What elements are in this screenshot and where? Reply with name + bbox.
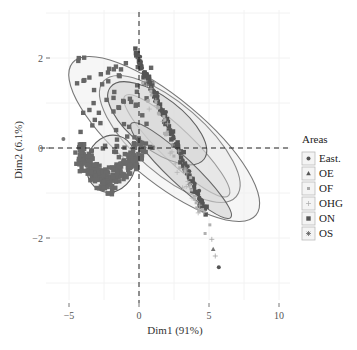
legend-label: OE bbox=[319, 167, 334, 179]
pca-biplot: −50510 −202 Dim1 (91%) Dim2 (6.1%) Areas… bbox=[0, 0, 357, 350]
legend-item-ohg: OHG bbox=[302, 197, 343, 210]
legend-item-of: OF bbox=[302, 182, 333, 195]
legend-item-os: OS bbox=[302, 227, 333, 240]
legend-label: OHG bbox=[319, 197, 343, 209]
legend-item-east: East. bbox=[302, 152, 341, 165]
legend-item-oe: OE bbox=[302, 167, 334, 180]
x-tick-label: −5 bbox=[64, 310, 75, 321]
legend-title: Areas bbox=[302, 133, 328, 145]
y-axis-ticks: −202 bbox=[32, 53, 50, 244]
x-axis-title: Dim1 (91%) bbox=[147, 324, 203, 337]
x-tick-label: 10 bbox=[274, 310, 284, 321]
x-axis-ticks: −50510 bbox=[64, 303, 284, 321]
legend-label: OS bbox=[319, 227, 333, 239]
y-tick-label: −2 bbox=[32, 233, 43, 244]
y-axis-title: Dim2 (6.1%) bbox=[12, 121, 25, 179]
x-tick-label: 0 bbox=[137, 310, 142, 321]
x-tick-label: 5 bbox=[207, 310, 212, 321]
legend-label: East. bbox=[319, 152, 341, 164]
confidence-ellipses bbox=[46, 31, 282, 247]
legend-item-on: ON bbox=[302, 212, 335, 225]
legend-label: ON bbox=[319, 212, 335, 224]
legend: Areas East.OEOFOHGONOS bbox=[302, 133, 343, 240]
y-tick-label: 2 bbox=[38, 53, 43, 64]
y-tick-label: 0 bbox=[38, 143, 43, 154]
legend-label: OF bbox=[319, 182, 333, 194]
